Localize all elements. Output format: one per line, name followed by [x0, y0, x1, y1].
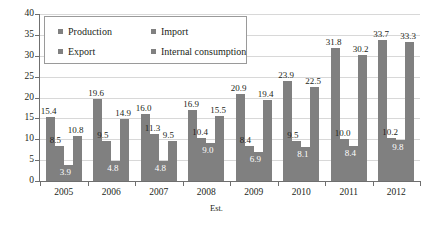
bar-production[interactable]: [188, 110, 197, 181]
bar-value-label: 9.5: [163, 131, 174, 140]
x-tick-label: 2006: [88, 187, 134, 197]
x-tick-mark: [420, 181, 421, 186]
x-axis-title: Est.: [0, 203, 433, 213]
bar-internal-consumption[interactable]: [120, 119, 129, 181]
bar-value-label: 33.7: [373, 30, 389, 39]
bar-value-label: 16.9: [183, 100, 199, 109]
bar-internal-consumption[interactable]: [168, 141, 177, 181]
bar-value-label: 20.9: [231, 84, 247, 93]
bar-value-label: 3.9: [60, 168, 71, 177]
bar-value-label: 19.6: [88, 89, 104, 98]
y-tick-label: 30: [4, 51, 34, 61]
x-tick-mark: [183, 181, 184, 186]
legend-item-export: Export: [58, 46, 95, 57]
bar-internal-consumption[interactable]: [73, 136, 82, 181]
bar-import[interactable]: [102, 141, 111, 181]
bar-import[interactable]: [292, 141, 301, 181]
bar-value-label: 16.0: [136, 104, 152, 113]
legend-swatch-icon: [151, 29, 156, 34]
bar-value-label: 19.4: [258, 90, 274, 99]
bar-value-label: 9.5: [97, 131, 108, 140]
bar-value-label: 4.8: [155, 164, 166, 173]
bar-value-label: 15.5: [210, 106, 226, 115]
x-tick-label: 2008: [183, 187, 229, 197]
bar-chart: 0510152025303540 15.48.53.910.819.69.54.…: [0, 0, 433, 229]
x-tick-label: 2009: [231, 187, 277, 197]
bar-value-label: 11.3: [145, 124, 160, 133]
bar-group: 31.810.08.430.2: [325, 14, 373, 181]
bar-internal-consumption[interactable]: [310, 87, 319, 181]
bar-internal-consumption[interactable]: [215, 116, 224, 181]
x-tick-label: 2011: [326, 187, 372, 197]
x-tick-label: 2012: [373, 187, 419, 197]
bar-import[interactable]: [340, 139, 349, 181]
legend-item-production: Production: [58, 26, 112, 37]
legend-label: Import: [161, 26, 188, 37]
legend-label: Export: [68, 46, 95, 57]
legend: Production Import Export Internal consum…: [44, 16, 247, 64]
bar-value-label: 23.9: [278, 71, 294, 80]
bar-value-label: 14.9: [115, 109, 131, 118]
bar-value-label: 9.0: [202, 146, 213, 155]
bar-value-label: 10.4: [192, 128, 208, 137]
bar-value-label: 10.0: [335, 129, 351, 138]
bar-import[interactable]: [197, 138, 206, 181]
x-tick-mark: [373, 181, 374, 186]
bar-value-label: 22.5: [305, 77, 321, 86]
x-tick-mark: [325, 181, 326, 186]
legend-swatch-icon: [151, 49, 156, 54]
bar-internal-consumption[interactable]: [405, 42, 414, 181]
bar-value-label: 10.2: [382, 128, 398, 137]
bar-value-label: 31.8: [326, 38, 342, 47]
y-tick-label: 35: [4, 30, 34, 40]
bar-value-label: 8.5: [50, 136, 61, 145]
bar-production[interactable]: [378, 40, 387, 181]
x-tick-label: 2005: [41, 187, 87, 197]
bar-internal-consumption[interactable]: [263, 100, 272, 181]
y-tick-label: 40: [4, 9, 34, 19]
bar-production[interactable]: [331, 48, 340, 181]
bar-value-label: 8.4: [240, 136, 251, 145]
bar-value-label: 33.3: [400, 32, 416, 41]
legend-label: Production: [68, 26, 112, 37]
legend-label: Internal consumption: [161, 46, 246, 57]
legend-swatch-icon: [58, 29, 63, 34]
legend-item-internal-consumption: Internal consumption: [151, 46, 246, 57]
bar-value-label: 15.4: [41, 107, 57, 116]
y-tick-label: 10: [4, 134, 34, 144]
y-axis-labels: 0510152025303540: [0, 0, 34, 229]
bar-group: 23.99.58.122.5: [278, 14, 326, 181]
x-tick-mark: [40, 181, 41, 186]
bar-value-label: 8.4: [345, 149, 356, 158]
x-tick-mark: [88, 181, 89, 186]
bar-value-label: 4.8: [107, 164, 118, 173]
bar-value-label: 10.8: [68, 126, 84, 135]
bar-group: 33.710.29.833.3: [373, 14, 421, 181]
y-tick-label: 5: [4, 155, 34, 165]
y-tick-label: 20: [4, 93, 34, 103]
legend-item-import: Import: [151, 26, 188, 37]
y-tick-label: 25: [4, 72, 34, 82]
y-tick-label: 0: [4, 176, 34, 186]
x-tick-mark: [278, 181, 279, 186]
bar-value-label: 8.1: [297, 150, 308, 159]
x-tick-label: 2007: [136, 187, 182, 197]
bar-value-label: 9.5: [287, 131, 298, 140]
x-tick-mark: [230, 181, 231, 186]
bar-value-label: 9.8: [392, 143, 403, 152]
x-tick-label: 2010: [278, 187, 324, 197]
y-tick-label: 15: [4, 113, 34, 123]
bar-internal-consumption[interactable]: [358, 55, 367, 181]
bar-value-label: 30.2: [353, 45, 369, 54]
x-tick-mark: [135, 181, 136, 186]
bar-production[interactable]: [46, 117, 55, 181]
legend-swatch-icon: [58, 49, 63, 54]
bar-import[interactable]: [150, 134, 159, 181]
bar-value-label: 6.9: [250, 155, 261, 164]
